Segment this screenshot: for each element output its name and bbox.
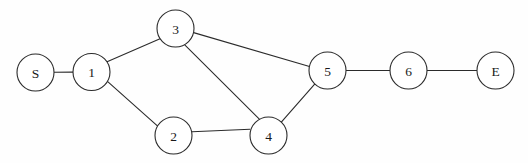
node-circle-3[interactable]	[157, 10, 194, 47]
graph-svg: S132456E	[0, 0, 528, 163]
graph-node-4[interactable]: 4	[250, 117, 287, 154]
graph-node-e[interactable]: E	[477, 52, 514, 89]
node-circle-4[interactable]	[250, 117, 287, 154]
graph-edge-3-5	[194, 33, 310, 67]
graph-node-1[interactable]: 1	[73, 54, 110, 91]
node-circle-2[interactable]	[155, 117, 192, 154]
graph-edge-2-4	[192, 129, 250, 132]
graph-node-6[interactable]: 6	[390, 52, 427, 89]
graph-edge-1-2	[108, 82, 158, 126]
node-circle-6[interactable]	[390, 52, 427, 89]
graph-diagram-canvas: S132456E	[0, 0, 528, 163]
graph-node-3[interactable]: 3	[157, 10, 194, 47]
node-circle-e[interactable]	[477, 52, 514, 89]
graph-edge-3-4	[185, 45, 260, 120]
node-circle-5[interactable]	[309, 52, 346, 89]
node-circle-1[interactable]	[73, 54, 110, 91]
graph-edge-4-5	[281, 84, 315, 123]
nodes-layer: S132456E	[17, 10, 514, 154]
graph-node-2[interactable]: 2	[155, 117, 192, 154]
graph-node-5[interactable]: 5	[309, 52, 346, 89]
node-circle-s[interactable]	[17, 54, 54, 91]
graph-edge-1-3	[107, 39, 161, 63]
graph-node-s[interactable]: S	[17, 54, 54, 91]
